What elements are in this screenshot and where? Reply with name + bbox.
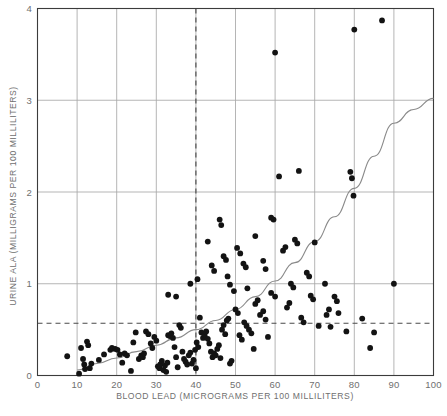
data-point — [76, 371, 82, 377]
data-point — [347, 169, 353, 175]
data-point — [260, 308, 266, 314]
scatter-plot-figure: 0102030405060708090100 01234 BLOOD LEAD … — [0, 0, 447, 416]
x-tick-label: 80 — [349, 379, 360, 390]
data-point — [211, 268, 217, 274]
chart-canvas: 0102030405060708090100 01234 BLOOD LEAD … — [0, 0, 447, 416]
data-point — [195, 276, 201, 282]
data-point — [64, 353, 70, 359]
data-point — [180, 349, 186, 355]
x-tick-label: 70 — [309, 379, 320, 390]
data-point — [334, 298, 340, 304]
data-point — [306, 274, 312, 280]
data-point — [251, 346, 257, 352]
x-axis-title: BLOOD LEAD (MICROGRAMS PER 100 MILLILITE… — [116, 391, 354, 401]
data-point — [206, 340, 212, 346]
data-point — [316, 323, 322, 329]
data-point — [209, 263, 215, 269]
x-tick-label: 40 — [190, 379, 201, 390]
data-point — [351, 27, 357, 33]
grid-lines — [38, 9, 434, 376]
data-point — [172, 344, 178, 350]
data-point — [276, 174, 282, 180]
data-point — [80, 356, 86, 362]
data-point — [170, 335, 176, 341]
data-point — [78, 345, 84, 351]
data-point — [88, 361, 94, 367]
x-tick-label: 100 — [425, 379, 441, 390]
data-point — [349, 175, 355, 181]
data-point — [379, 18, 385, 24]
data-point — [272, 50, 278, 56]
data-point — [128, 368, 134, 374]
data-point — [239, 337, 245, 343]
data-point — [290, 285, 296, 291]
data-point — [133, 329, 139, 335]
data-point — [153, 338, 159, 344]
data-point — [351, 193, 357, 199]
data-point — [145, 331, 151, 337]
data-point — [218, 355, 224, 361]
data-point — [164, 360, 170, 366]
data-point — [229, 358, 235, 364]
data-point — [296, 168, 302, 174]
data-point — [195, 344, 201, 350]
data-point — [343, 329, 349, 335]
data-point — [263, 266, 269, 272]
data-point — [252, 233, 258, 239]
x-tick-label: 10 — [72, 379, 83, 390]
data-point — [119, 360, 125, 366]
y-tick-label: 3 — [27, 95, 32, 106]
data-point — [248, 330, 254, 336]
data-point — [328, 324, 334, 330]
data-point — [96, 357, 102, 363]
data-point — [263, 317, 269, 323]
data-point — [234, 245, 240, 251]
data-point — [178, 325, 184, 331]
data-point — [322, 281, 328, 287]
data-point — [141, 351, 147, 357]
data-point — [225, 316, 231, 322]
data-point — [283, 244, 289, 250]
data-point — [235, 310, 241, 316]
data-point — [175, 364, 181, 370]
data-point — [222, 331, 228, 337]
data-point — [301, 319, 307, 325]
data-point — [225, 274, 231, 280]
x-tick-label: 90 — [388, 379, 399, 390]
data-point — [336, 310, 342, 316]
data-point — [216, 342, 222, 348]
data-point — [149, 345, 155, 351]
y-axis-title: URINE ALA (MILLIGRAMS PER 100 MILLILITER… — [8, 86, 18, 305]
data-point — [371, 329, 377, 335]
data-point — [130, 340, 136, 346]
data-point — [203, 329, 209, 335]
data-point — [391, 281, 397, 287]
y-tick-label: 2 — [27, 187, 32, 198]
y-axis-ticks: 01234 — [27, 3, 32, 381]
data-point — [197, 315, 203, 321]
data-point — [324, 312, 330, 318]
x-tick-label: 20 — [111, 379, 122, 390]
data-point — [124, 352, 130, 358]
data-point — [237, 251, 243, 257]
data-point — [205, 239, 211, 245]
data-point — [294, 240, 300, 246]
data-point — [243, 264, 249, 270]
data-point — [255, 297, 261, 303]
data-point — [312, 240, 318, 246]
data-point — [223, 257, 229, 263]
x-axis-ticks: 0102030405060708090100 — [35, 379, 442, 390]
data-point — [310, 296, 316, 302]
x-tick-label: 30 — [151, 379, 162, 390]
data-point — [260, 258, 266, 264]
data-point — [359, 316, 365, 322]
data-point — [217, 217, 223, 223]
data-point — [187, 281, 193, 287]
data-point — [265, 334, 271, 340]
data-point — [286, 300, 292, 306]
x-tick-label: 60 — [270, 379, 281, 390]
data-point — [244, 285, 250, 291]
data-point — [227, 282, 233, 288]
data-point — [173, 354, 179, 360]
data-point — [191, 357, 197, 363]
